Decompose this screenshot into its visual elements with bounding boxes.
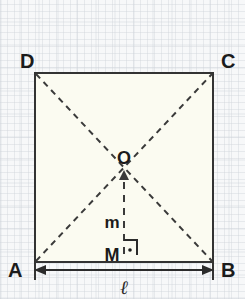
apothem-label-m: m: [104, 213, 119, 232]
figure-canvas: D C A B O M m ℓ: [0, 0, 245, 299]
point-label-o: O: [117, 148, 131, 168]
vertex-label-d: D: [20, 50, 34, 72]
vertex-label-c: C: [221, 50, 235, 72]
side-length-label-ell: ℓ: [120, 277, 128, 298]
vertex-label-a: A: [8, 259, 22, 281]
right-angle-dot-icon: [128, 248, 132, 252]
point-label-m: M: [105, 245, 120, 265]
vertex-label-b: B: [221, 259, 235, 281]
geometry-diagram: D C A B O M m ℓ: [0, 0, 245, 299]
